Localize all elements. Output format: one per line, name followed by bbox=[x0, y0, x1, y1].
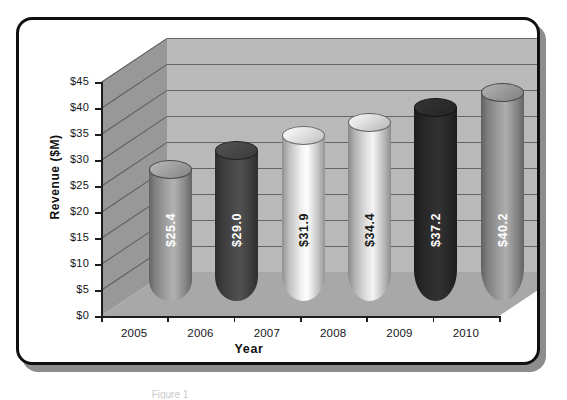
bar-cylinder-top bbox=[481, 83, 524, 102]
figure-root: $45$40$35$30$25$20$15$10$5$0 20052006200… bbox=[0, 0, 567, 400]
x-tick-label: 2005 bbox=[107, 327, 161, 339]
y-tick-label: $15 bbox=[49, 231, 89, 243]
bar-cylinder-body bbox=[481, 92, 524, 301]
gridline-horizontal bbox=[167, 64, 537, 65]
x-axis-tick bbox=[101, 316, 103, 322]
bar-cylinder: $31.9 bbox=[282, 126, 325, 301]
bar-cylinder: $37.2 bbox=[414, 98, 457, 301]
y-tick-label: $5 bbox=[49, 283, 89, 295]
bar-data-label: $29.0 bbox=[230, 209, 244, 252]
y-tick-label: $40 bbox=[49, 101, 89, 113]
y-axis-tick bbox=[95, 212, 101, 214]
chart-plot-area: $45$40$35$30$25$20$15$10$5$0 20052006200… bbox=[19, 20, 537, 362]
bar-cylinder: $25.4 bbox=[149, 160, 192, 302]
x-axis-tick bbox=[499, 316, 501, 322]
y-tick-label: $30 bbox=[49, 153, 89, 165]
bar-cylinder-top bbox=[215, 141, 258, 160]
y-tick-label: $10 bbox=[49, 257, 89, 269]
x-axis-tick bbox=[234, 316, 236, 322]
bar-cylinder: $40.2 bbox=[481, 83, 524, 302]
bar-data-label: $40.2 bbox=[495, 209, 509, 252]
y-tick-label: $35 bbox=[49, 127, 89, 139]
bar-cylinder-top bbox=[282, 126, 325, 145]
x-tick-label: 2009 bbox=[373, 327, 427, 339]
bar-data-label: $31.9 bbox=[296, 209, 310, 252]
bar-data-label: $25.4 bbox=[163, 209, 177, 252]
y-axis-tick bbox=[95, 82, 101, 84]
bar-cylinder-top bbox=[348, 113, 391, 132]
bar-data-label: $34.4 bbox=[362, 209, 376, 252]
y-tick-label: $25 bbox=[49, 179, 89, 191]
x-tick-label: 2010 bbox=[439, 327, 493, 339]
bar-cylinder-top bbox=[149, 160, 192, 179]
x-tick-label: 2006 bbox=[174, 327, 228, 339]
x-axis-title: Year bbox=[169, 342, 329, 356]
y-axis-tick bbox=[95, 264, 101, 266]
x-axis-tick bbox=[167, 316, 169, 322]
y-tick-label: $45 bbox=[49, 75, 89, 87]
y-axis-tick bbox=[95, 108, 101, 110]
gridline-horizontal bbox=[167, 38, 537, 39]
y-tick-label: $20 bbox=[49, 205, 89, 217]
bar-cylinder: $29.0 bbox=[215, 141, 258, 301]
chart-frame: $45$40$35$30$25$20$15$10$5$0 20052006200… bbox=[16, 17, 540, 365]
x-axis-tick bbox=[366, 316, 368, 322]
bar-data-label: $37.2 bbox=[429, 209, 443, 252]
y-axis-tick bbox=[95, 290, 101, 292]
y-axis-tick bbox=[95, 160, 101, 162]
bar-cylinder-body bbox=[414, 108, 457, 301]
x-axis-tick bbox=[300, 316, 302, 322]
y-axis-tick bbox=[95, 238, 101, 240]
x-axis-tick bbox=[433, 316, 435, 322]
figure-caption: Figure 1 bbox=[60, 389, 280, 399]
x-tick-label: 2008 bbox=[306, 327, 360, 339]
x-tick-label: 2007 bbox=[240, 327, 294, 339]
y-axis-line bbox=[101, 82, 103, 318]
bar-cylinder: $34.4 bbox=[348, 113, 391, 301]
y-tick-label: $0 bbox=[49, 309, 89, 321]
y-axis-tick bbox=[95, 186, 101, 188]
y-axis-tick bbox=[95, 134, 101, 136]
